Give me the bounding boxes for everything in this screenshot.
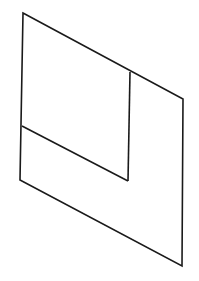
inner-vertical-line [128, 72, 130, 181]
outer-parallelogram [20, 13, 183, 266]
inner-slant-line [22, 126, 128, 181]
diagram-canvas [0, 0, 199, 281]
